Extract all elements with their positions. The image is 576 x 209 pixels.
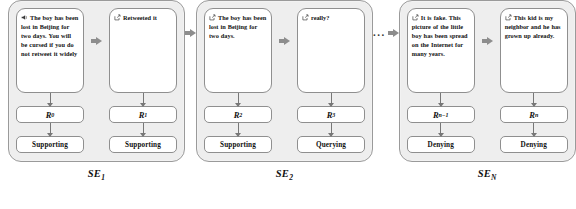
arrow-rn-1-to-rn <box>482 37 493 45</box>
post-text-r0: The boy has been lost in Beijing for two… <box>21 14 78 57</box>
arrow-r2-to-r3 <box>279 37 290 45</box>
connector-bubble-to-rn-1 <box>440 93 441 106</box>
arrow-r0-to-r1 <box>91 37 102 45</box>
se-2-container: The boy has been lost in Beijing for two… <box>196 0 373 162</box>
connector-bubble-to-rn <box>533 93 534 106</box>
connector-rn-to-stance <box>533 123 534 136</box>
node-subscript-rn-1: n−1 <box>439 112 449 118</box>
connector-bubble-to-r1 <box>143 93 144 106</box>
node-label-r0: R0 <box>16 106 84 123</box>
se-2-caption: SE2 <box>276 168 294 182</box>
gap-se2-sen: ... <box>373 0 399 38</box>
post-column-r0: The boy has been lost in Beijing for two… <box>16 8 84 153</box>
stance-label-r2: Supporting <box>204 136 272 153</box>
retweet-icon <box>505 14 512 21</box>
connector-r3-to-stance <box>331 123 332 136</box>
node-label-r2: R2 <box>204 106 272 123</box>
ellipsis-label: ... <box>373 27 386 38</box>
node-label-r1: R1 <box>109 106 177 123</box>
node-subscript-r0: 0 <box>51 112 54 118</box>
session-event-group-2: The boy has been lost in Beijing for two… <box>196 0 373 182</box>
node-label-rn-1: Rn−1 <box>407 106 475 123</box>
stance-label-r1: Supporting <box>109 136 177 153</box>
se-1-container: The boy has been lost in Beijing for two… <box>8 0 185 162</box>
node-label-rn: Rn <box>500 106 568 123</box>
session-event-group-1: The boy has been lost in Beijing for two… <box>8 0 185 182</box>
node-subscript-r2: 2 <box>239 112 242 118</box>
node-subscript-rn: n <box>535 112 538 118</box>
node-subscript-r1: 1 <box>144 112 147 118</box>
post-text-r2: The boy has been lost in Beijing for two… <box>209 14 266 39</box>
stance-label-r3: Querying <box>297 136 365 153</box>
stance-label-r0: Supporting <box>16 136 84 153</box>
arrow-se1-to-se2 <box>185 29 196 37</box>
connector-bubble-to-r2 <box>238 93 239 106</box>
post-text-r1: Retweeted it <box>123 14 157 21</box>
post-text-rn-1: It is fake. This picture of the little b… <box>412 14 468 57</box>
post-column-r2: The boy has been lost in Beijing for two… <box>204 8 272 153</box>
post-column-rn-1: It is fake. This picture of the little b… <box>407 8 475 153</box>
post-bubble-rn-1[interactable]: It is fake. This picture of the little b… <box>407 8 475 93</box>
post-bubble-r2[interactable]: The boy has been lost in Beijing for two… <box>204 8 272 93</box>
se-1-caption: SE1 <box>88 168 106 182</box>
connector-bubble-to-r0 <box>50 93 51 106</box>
se-n-container: It is fake. This picture of the little b… <box>399 0 576 162</box>
retweet-icon <box>114 14 121 21</box>
post-bubble-rn[interactable]: This kid is my neighbor and he has grown… <box>500 8 568 93</box>
post-bubble-r0[interactable]: The boy has been lost in Beijing for two… <box>16 8 84 93</box>
gap-se1-se2 <box>185 0 196 37</box>
retweet-icon <box>412 14 419 21</box>
arrow-ellipsis-to-sen <box>388 29 399 37</box>
stance-label-rn: Denying <box>500 136 568 153</box>
post-column-r1: Retweeted it R1 Supporting <box>109 8 177 153</box>
connector-r1-to-stance <box>143 123 144 136</box>
node-subscript-r3: 3 <box>332 112 335 118</box>
retweet-icon <box>209 14 216 21</box>
connector-rn-1-to-stance <box>440 123 441 136</box>
stance-label-rn-1: Denying <box>407 136 475 153</box>
connector-r0-to-stance <box>50 123 51 136</box>
post-column-r3: really? R3 Querying <box>297 8 365 153</box>
connector-r2-to-stance <box>238 123 239 136</box>
post-text-r3: really? <box>311 14 329 21</box>
post-bubble-r3[interactable]: really? <box>297 8 365 93</box>
megaphone-icon <box>21 14 28 21</box>
post-text-rn: This kid is my neighbor and he has grown… <box>505 14 561 39</box>
retweet-icon <box>302 14 309 21</box>
session-event-group-n: It is fake. This picture of the little b… <box>399 0 576 182</box>
node-label-r3: R3 <box>297 106 365 123</box>
post-column-rn: This kid is my neighbor and he has grown… <box>500 8 568 153</box>
se-n-caption: SEN <box>478 168 497 182</box>
post-bubble-r1[interactable]: Retweeted it <box>109 8 177 93</box>
connector-bubble-to-r3 <box>331 93 332 106</box>
